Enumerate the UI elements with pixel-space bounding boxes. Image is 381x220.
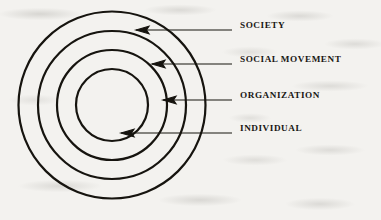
callout-social-movement: [152, 60, 232, 67]
label-organization: ORGANIZATION: [240, 91, 320, 100]
arrow-head-social-movement: [152, 60, 165, 67]
diagram-page: SOCIETY SOCIAL MOVEMENT ORGANIZATION IND…: [0, 0, 381, 220]
ring-society: [19, 12, 206, 199]
concentric-circles-diagram: [0, 0, 381, 220]
arrow-head-society: [136, 26, 149, 33]
callout-organization: [163, 96, 232, 103]
ring-group: [19, 12, 206, 199]
arrow-head-organization: [163, 96, 176, 103]
callout-leaders: [121, 26, 232, 136]
label-social-movement: SOCIAL MOVEMENT: [240, 55, 341, 64]
callout-society: [136, 26, 232, 33]
ring-organization: [57, 50, 167, 160]
ring-social-movement: [38, 31, 186, 179]
arrow-head-individual: [121, 129, 134, 136]
label-individual: INDIVIDUAL: [240, 124, 302, 133]
label-society: SOCIETY: [240, 21, 285, 30]
ring-individual: [76, 69, 148, 141]
